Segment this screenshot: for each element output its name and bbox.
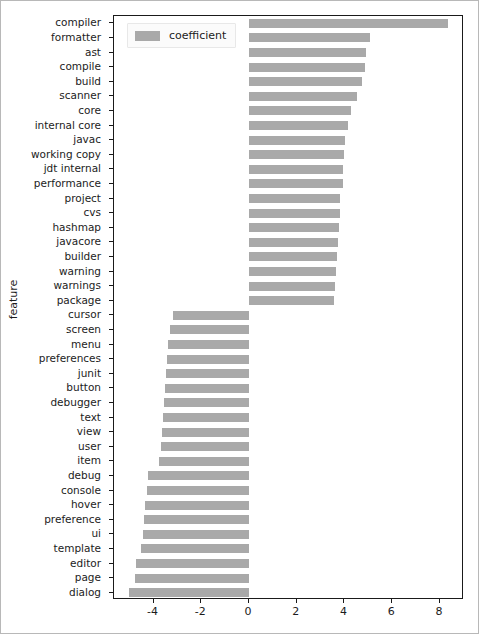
y-tick-label: project — [65, 192, 101, 203]
bar-button — [165, 384, 249, 393]
x-tick-mark — [200, 599, 201, 603]
bar-editor — [136, 559, 249, 568]
bar-dialog — [129, 588, 249, 597]
y-tick-label: compiler — [55, 17, 101, 28]
y-tick-label: debugger — [50, 396, 101, 407]
y-tick-label: button — [66, 382, 101, 393]
y-tick-label: dialog — [69, 586, 101, 597]
bar-core — [249, 106, 351, 115]
bar-package — [249, 296, 334, 305]
plot-area — [113, 15, 463, 599]
y-tick-label: preferences — [39, 353, 101, 364]
bar-page — [135, 574, 249, 583]
bar-item — [159, 457, 249, 466]
bar-javacore — [249, 238, 338, 247]
bar-build — [249, 77, 362, 86]
x-tick-mark — [248, 599, 249, 603]
bar-preferences — [167, 355, 249, 364]
bar-builder — [249, 252, 337, 261]
bar-menu — [168, 340, 249, 349]
x-tick-mark — [391, 599, 392, 603]
bar-project — [249, 194, 340, 203]
y-tick-label: text — [80, 411, 101, 422]
y-tick-label: formatter — [51, 31, 101, 42]
bar-ast — [249, 48, 366, 57]
bar-hashmap — [249, 223, 339, 232]
x-tick-label: 2 — [292, 605, 299, 618]
y-tick-label: page — [75, 572, 101, 583]
bar-debugger — [164, 398, 249, 407]
y-tick-label: hashmap — [52, 221, 101, 232]
y-tick-label: user — [78, 440, 101, 451]
y-tick-label: compile — [60, 61, 101, 72]
bar-text — [163, 413, 249, 422]
x-tick-label: 6 — [388, 605, 395, 618]
x-tick-label: 8 — [435, 605, 442, 618]
y-tick-label: warnings — [53, 280, 101, 291]
y-tick-label: menu — [71, 338, 101, 349]
y-axis-tick-labels: compilerformatterastcompilebuildscannerc… — [1, 15, 109, 599]
x-tick-label: 4 — [340, 605, 347, 618]
y-tick-label: javacore — [56, 236, 101, 247]
y-tick-label: cursor — [68, 309, 101, 320]
y-tick-label: internal core — [35, 119, 101, 130]
legend: coefficient — [127, 23, 236, 48]
bar-compiler — [249, 19, 448, 28]
bar-user — [161, 442, 249, 451]
y-tick-label: build — [75, 75, 101, 86]
legend-color-swatch — [135, 31, 160, 41]
x-axis-ticks: -4-202468 — [113, 599, 463, 629]
bar-cursor — [173, 311, 249, 320]
y-tick-label: performance — [34, 177, 101, 188]
bar-warning — [249, 267, 336, 276]
bar-view — [162, 428, 249, 437]
y-tick-label: cvs — [84, 207, 101, 218]
y-tick-label: item — [77, 455, 101, 466]
y-tick-label: template — [54, 542, 101, 553]
y-tick-label: ast — [85, 46, 101, 57]
x-tick-mark — [439, 599, 440, 603]
y-tick-label: screen — [66, 323, 101, 334]
y-tick-label: package — [57, 294, 101, 305]
x-tick-label: -4 — [147, 605, 158, 618]
x-tick-label: -2 — [195, 605, 206, 618]
y-tick-label: junit — [78, 367, 101, 378]
y-tick-label: editor — [70, 557, 101, 568]
x-tick-mark — [153, 599, 154, 603]
y-tick-label: console — [61, 484, 101, 495]
bar-preference — [144, 515, 249, 524]
y-tick-label: ui — [91, 528, 101, 539]
y-tick-label: warning — [59, 265, 101, 276]
y-tick-label: debug — [68, 469, 101, 480]
bar-javac — [249, 136, 345, 145]
bar-screen — [170, 325, 249, 334]
x-tick-mark — [343, 599, 344, 603]
y-tick-label: scanner — [59, 90, 101, 101]
y-tick-label: core — [78, 104, 101, 115]
bar-junit — [166, 369, 249, 378]
bar-warnings — [249, 282, 335, 291]
bar-template — [141, 544, 249, 553]
bar-working-copy — [249, 150, 344, 159]
bar-performance — [249, 179, 343, 188]
bar-console — [147, 486, 249, 495]
legend-label: coefficient — [169, 29, 226, 42]
bar-debug — [148, 471, 249, 480]
bar-compile — [249, 63, 365, 72]
y-tick-label: view — [77, 426, 101, 437]
y-tick-label: javac — [73, 134, 101, 145]
bar-formatter — [249, 33, 370, 42]
y-tick-label: working copy — [31, 148, 101, 159]
figure-canvas: feature compilerformatterastcompilebuild… — [0, 0, 479, 634]
bars-layer — [114, 16, 462, 598]
bar-internal-core — [249, 121, 348, 130]
bar-hover — [145, 501, 249, 510]
bar-ui — [143, 530, 249, 539]
y-tick-label: hover — [71, 499, 101, 510]
y-tick-label: jdt internal — [44, 163, 101, 174]
y-tick-label: preference — [44, 513, 101, 524]
bar-jdt-internal — [249, 165, 343, 174]
y-tick-label: builder — [64, 250, 101, 261]
x-tick-mark — [296, 599, 297, 603]
x-tick-label: 0 — [245, 605, 252, 618]
